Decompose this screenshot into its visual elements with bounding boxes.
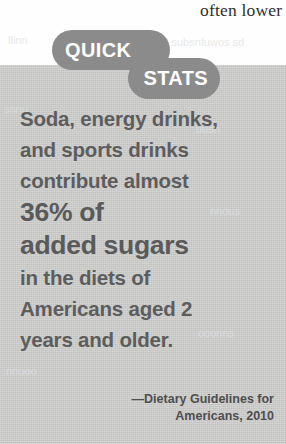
- callout-text-block: Soda, energy drinks, and sports drinks c…: [20, 103, 272, 355]
- attribution-line-1: —Dietary Guidelines for: [44, 391, 274, 408]
- source-attribution: —Dietary Guidelines for Americans, 2010: [44, 391, 274, 425]
- callout-line: years and older.: [20, 324, 272, 355]
- callout-line: Americans aged 2: [20, 293, 272, 324]
- running-body-text: often lower i: [200, 0, 286, 20]
- callout-line: Soda, energy drinks,: [20, 103, 272, 134]
- callout-line-emphasis: added sugars: [20, 229, 272, 262]
- attribution-line-2: Americans, 2010: [44, 408, 274, 425]
- page-top-strip: llinn ood subsnfuwos sd often lower i: [0, 0, 286, 65]
- callout-line: contribute almost: [20, 165, 272, 196]
- ghost-text-top-left: llinn: [8, 34, 28, 46]
- callout-line: and sports drinks: [20, 134, 272, 165]
- ghost-text-panel-5: nnuoo: [6, 365, 37, 377]
- quick-stats-callout: llinn ood subsnfuwos sd often lower i sn…: [0, 0, 286, 444]
- callout-line-emphasis: 36% of: [20, 196, 272, 229]
- ghost-text-top-right: ood subsnfuwos sd: [150, 36, 244, 48]
- callout-line: in the diets of: [20, 262, 272, 293]
